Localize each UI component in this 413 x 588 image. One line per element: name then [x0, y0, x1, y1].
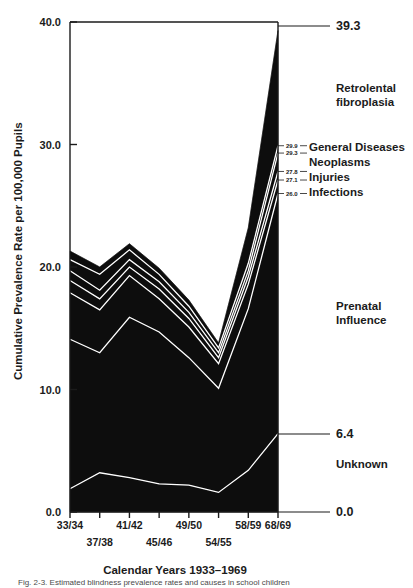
- y-tick-label-10.0: 10.0: [40, 384, 61, 396]
- x-category-label-68-69: 68/69: [265, 519, 291, 531]
- x-category-label-37-38: 37/38: [87, 536, 113, 548]
- end-value-unknown: 6.4: [336, 427, 353, 441]
- band-callout-label-infections: Infections: [309, 186, 363, 198]
- band-callout-label-neoplasms: Neoplasms: [309, 156, 370, 168]
- y-tick-label-30.0: 30.0: [40, 139, 61, 151]
- x-category-label-45-46: 45/46: [146, 536, 172, 548]
- callout-value-29.9: 29.9: [286, 143, 298, 149]
- chart-canvas: 40.030.020.010.00.0 Cumulative Prevalenc…: [0, 0, 413, 588]
- x-category-label-33-34: 33/34: [57, 519, 83, 531]
- callout-value-27.8: 27.8: [286, 169, 298, 175]
- y-axis-title: Cumulative Prevalence Rate per 100,000 P…: [12, 122, 24, 380]
- end-value-total: 39.3: [336, 19, 360, 33]
- band-label-retrolental-line1: Retrolental: [336, 82, 396, 94]
- band-callout-label-injuries: Injuries: [309, 171, 350, 183]
- figure-caption: Fig. 2-3. Estimated blindness prevalence…: [18, 578, 290, 587]
- x-axis-title: Calendar Years 1933–1969: [103, 564, 247, 576]
- band-callout-label-general-diseases: General Diseases: [309, 141, 405, 153]
- band-value-callouts: 29.929.327.827.126.0General DiseasesNeop…: [278, 141, 405, 198]
- band-label-unknown: Unknown: [336, 458, 388, 470]
- x-axis-ticks: [70, 512, 278, 518]
- band-label-prenatal-line2: Influence: [336, 314, 386, 326]
- end-value-baseline: 0.0: [336, 505, 353, 519]
- x-category-label-41-42: 41/42: [116, 519, 142, 531]
- x-category-labels-top: 33/3441/4249/5058/5968/69: [57, 519, 291, 531]
- x-category-label-49-50: 49/50: [176, 519, 202, 531]
- x-category-label-58-59: 58/59: [235, 519, 261, 531]
- x-category-label-54-55: 54/55: [205, 536, 231, 548]
- y-tick-label-40.0: 40.0: [40, 16, 61, 28]
- figure-stacked-area-blindness-causes: 40.030.020.010.00.0 Cumulative Prevalenc…: [0, 0, 413, 588]
- callout-value-27.1: 27.1: [286, 177, 298, 183]
- callout-value-29.3: 29.3: [286, 150, 298, 156]
- y-tick-label-20.0: 20.0: [40, 261, 61, 273]
- x-category-labels-bottom: 37/3845/4654/55: [87, 536, 232, 548]
- band-label-prenatal-line1: Prenatal: [336, 300, 381, 312]
- callout-value-26.0: 26.0: [286, 191, 298, 197]
- band-label-retrolental-line2: fibroplasia: [336, 96, 395, 108]
- y-tick-label-0.0: 0.0: [46, 506, 61, 518]
